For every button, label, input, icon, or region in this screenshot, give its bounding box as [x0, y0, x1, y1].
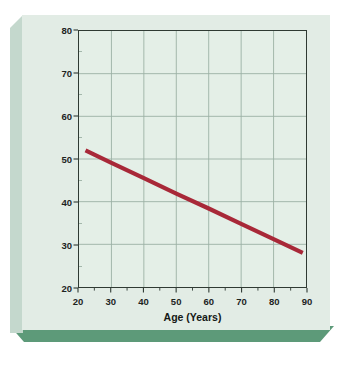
x-tick-label: 50: [171, 296, 182, 307]
y-tick-label: 30: [48, 240, 72, 251]
x-tick-label: 30: [105, 296, 116, 307]
x-tick-label: 20: [73, 296, 84, 307]
y-tick-label: 40: [48, 197, 72, 208]
y-tick-label: 70: [48, 68, 72, 79]
x-tick-label: 60: [204, 296, 215, 307]
chart-figure-card: 20304050607080 2030405060708090 Age (Yea…: [0, 0, 346, 365]
y-tick-label: 60: [48, 111, 72, 122]
x-tick-label: 70: [236, 296, 247, 307]
x-tick-label: 40: [138, 296, 149, 307]
x-tick-label: 80: [269, 296, 280, 307]
data-line-series: [79, 31, 306, 287]
y-tick-label: 20: [48, 283, 72, 294]
plot-area: [78, 30, 307, 288]
y-tick-label: 50: [48, 154, 72, 165]
x-axis-title: Age (Years): [78, 311, 307, 323]
x-tick-label: 90: [302, 296, 313, 307]
y-tick-label: 80: [48, 25, 72, 36]
